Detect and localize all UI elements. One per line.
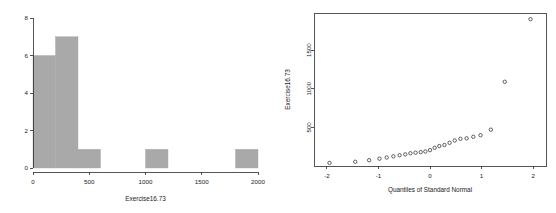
- qq-x-tick-label: 2: [531, 172, 535, 179]
- qq-plot-svg: 50010001500-2-1012 Quantiles of Standard…: [278, 0, 556, 213]
- histogram-bar: [33, 56, 56, 169]
- qq-data-point: [378, 157, 381, 160]
- histogram-x-tick-label: 0: [31, 178, 35, 185]
- histogram-bar: [56, 37, 79, 168]
- qq-data-point: [424, 150, 427, 153]
- histogram-y-tick-label: 2: [25, 127, 29, 134]
- histogram-panel: 024680500100015002000 Exercise16.73: [0, 0, 278, 213]
- qq-data-point: [459, 137, 462, 140]
- qq-data-point: [392, 155, 395, 158]
- histogram-x-tick-label: 1000: [139, 178, 153, 185]
- histogram-x-tick-label: 2000: [251, 178, 265, 185]
- qq-data-point: [354, 160, 357, 163]
- qq-data-point: [443, 143, 446, 146]
- qq-x-tick-label: -2: [324, 172, 330, 179]
- qq-data-point: [419, 150, 422, 153]
- qq-data-point: [479, 134, 482, 137]
- histogram-bar: [236, 149, 259, 168]
- qq-data-point: [398, 153, 401, 156]
- qq-data-point: [328, 161, 331, 164]
- histogram-x-axis-title: Exercise16.73: [125, 195, 166, 202]
- qq-data-point: [367, 159, 370, 162]
- qq-data-point: [433, 146, 436, 149]
- qq-data-point: [448, 141, 451, 144]
- qq-x-tick-label: 0: [428, 172, 432, 179]
- histogram-svg: 024680500100015002000 Exercise16.73: [0, 0, 278, 213]
- qq-data-point: [472, 135, 475, 138]
- qq-plot-frame: [314, 13, 546, 166]
- qq-data-point: [428, 148, 431, 151]
- histogram-bar: [78, 149, 101, 168]
- qq-y-axis-title: Exercise16.73: [284, 69, 291, 110]
- qq-data-point: [409, 152, 412, 155]
- qq-plot-tick-labels: 50010001500-2-1012: [305, 43, 536, 179]
- histogram-y-tick-label: 6: [25, 52, 29, 59]
- qq-y-tick-label: 500: [305, 122, 312, 133]
- histogram-bars: [33, 37, 258, 168]
- qq-data-point: [414, 151, 417, 154]
- qq-x-tick-label: 1: [480, 172, 484, 179]
- qq-data-point: [489, 128, 492, 131]
- qq-data-point: [385, 156, 388, 159]
- histogram-y-tick-label: 8: [25, 14, 29, 21]
- histogram-y-tick-label: 4: [25, 89, 29, 96]
- histogram-y-tick-label: 0: [25, 164, 29, 171]
- qq-plot-points: [328, 17, 532, 164]
- histogram-bar: [146, 149, 169, 168]
- qq-plot-panel: 50010001500-2-1012 Quantiles of Standard…: [278, 0, 556, 213]
- qq-x-tick-label: -1: [376, 172, 382, 179]
- qq-x-axis-title: Quantiles of Standard Normal: [388, 186, 472, 194]
- qq-data-point: [404, 153, 407, 156]
- qq-y-tick-label: 1500: [305, 43, 312, 57]
- qq-data-point: [453, 139, 456, 142]
- qq-data-point: [438, 144, 441, 147]
- figure-root: 024680500100015002000 Exercise16.73 5001…: [0, 0, 556, 213]
- qq-y-tick-label: 1000: [305, 81, 312, 95]
- qq-data-point: [529, 17, 532, 20]
- qq-data-point: [503, 80, 506, 83]
- histogram-x-tick-label: 500: [84, 178, 95, 185]
- qq-data-point: [465, 137, 468, 140]
- histogram-x-tick-label: 1500: [195, 178, 209, 185]
